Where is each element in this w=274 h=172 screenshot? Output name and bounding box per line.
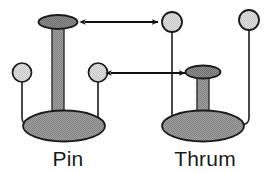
heterostyly-diagram: Pin Thrum bbox=[0, 0, 274, 172]
pin-ovary bbox=[23, 111, 105, 142]
thrum-stigma-low bbox=[186, 66, 221, 79]
thrum-stamen-left bbox=[162, 12, 190, 125]
anther-left-high bbox=[162, 12, 182, 32]
filament-line bbox=[232, 30, 249, 125]
thrum-stamen-right bbox=[232, 10, 259, 125]
anther-left-low bbox=[13, 63, 32, 82]
pin-style-column bbox=[52, 22, 64, 124]
thrum-ovary bbox=[162, 111, 244, 142]
pin-stigma-high bbox=[39, 15, 78, 29]
pin-flower: Pin bbox=[13, 15, 108, 170]
anther-right-high bbox=[239, 10, 259, 30]
thrum-label: Thrum bbox=[174, 147, 236, 170]
anther-right-low bbox=[89, 63, 108, 82]
pin-label: Pin bbox=[53, 147, 84, 170]
thrum-flower: Thrum bbox=[162, 10, 259, 170]
heterostyly-illustration: Pin Thrum bbox=[0, 0, 274, 172]
